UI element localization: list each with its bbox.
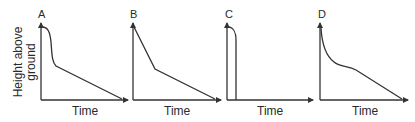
panel-a-letter: A (38, 8, 46, 20)
panel-a-x-label: Time (72, 104, 99, 118)
panel-c-letter: C (225, 8, 233, 20)
panel-b-x-label: Time (164, 104, 191, 118)
panel-d: D Time (318, 8, 408, 118)
y-axis-label: Height above ground (11, 26, 38, 97)
y-axis-label-line1: Height above (11, 26, 25, 97)
panel-c-curve (228, 27, 236, 100)
panel-b-curve (134, 27, 215, 99)
y-axis-label-line2: ground (24, 43, 38, 80)
panel-c: C Time (225, 8, 313, 118)
figure-canvas: Height above ground A Time B Time C Time… (0, 0, 415, 122)
panel-a: A Time (38, 8, 128, 118)
panel-a-curve (42, 27, 122, 99)
panel-b: B Time (130, 8, 221, 118)
panel-d-letter: D (318, 8, 326, 20)
panel-d-x-label: Time (352, 104, 379, 118)
panel-c-x-label: Time (257, 104, 284, 118)
panel-d-curve (321, 28, 402, 99)
panel-b-letter: B (130, 8, 137, 20)
